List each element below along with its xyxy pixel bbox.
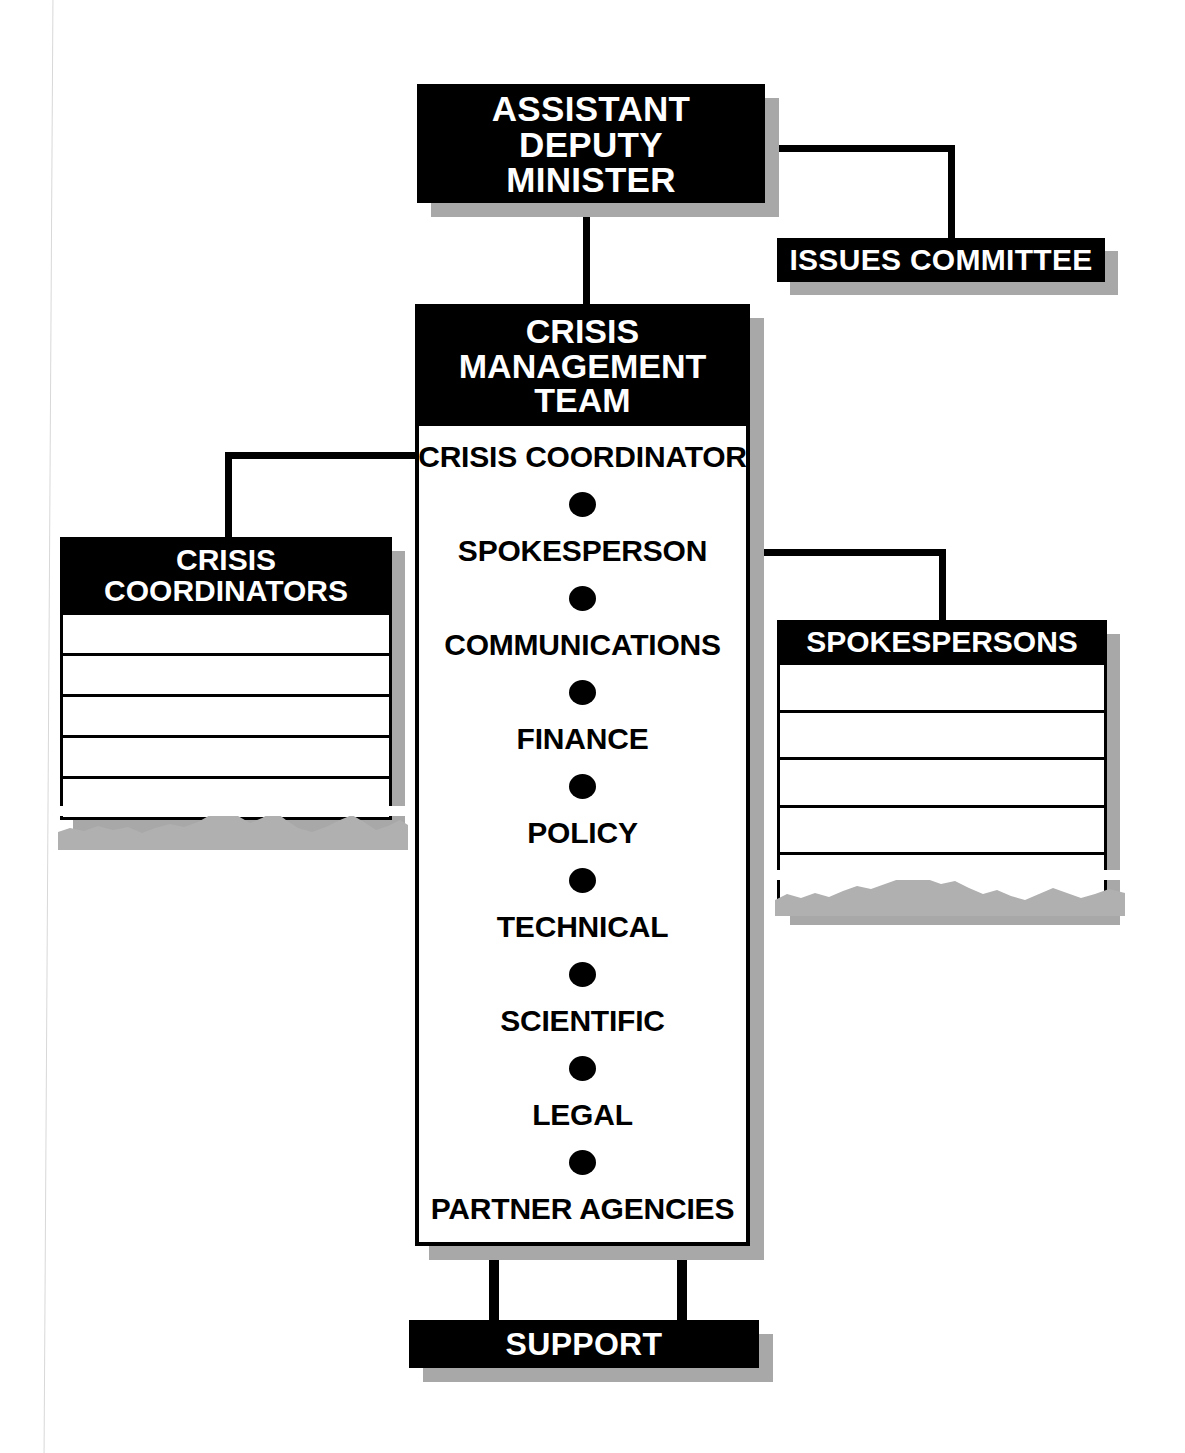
crisis-management-team-member-list: CRISIS COORDINATOR SPOKESPERSON COMMUNIC… <box>415 426 750 1246</box>
connector-coordinator-to-list-horizontal <box>225 452 420 459</box>
issues-committee-label: ISSUES COMMITTEE <box>789 245 1092 276</box>
cmt-member-scientific[interactable]: SCIENTIFIC <box>500 1006 665 1036</box>
cmt-member-spokesperson[interactable]: SPOKESPERSON <box>458 536 707 566</box>
spokespersons-rows <box>777 665 1107 903</box>
cmt-member-technical[interactable]: TECHNICAL <box>497 912 669 942</box>
spokespersons-header: SPOKESPERSONS <box>777 620 1107 665</box>
crisis-management-team-box[interactable]: CRISIS MANAGEMENT TEAM CRISIS COORDINATO… <box>415 304 750 1246</box>
list-item[interactable] <box>780 713 1104 761</box>
list-item[interactable] <box>63 738 389 779</box>
list-item[interactable] <box>780 665 1104 713</box>
crisis-coordinators-rows <box>60 615 392 820</box>
spokespersons-header-label: SPOKESPERSONS <box>806 627 1078 658</box>
list-item[interactable] <box>780 760 1104 808</box>
page-edge-line <box>44 0 54 1453</box>
bullet-dot-icon <box>569 1150 596 1175</box>
support-box[interactable]: SUPPORT <box>409 1320 759 1368</box>
adm-label-line3: MINISTER <box>492 162 690 198</box>
bullet-dot-icon <box>569 868 596 893</box>
list-item[interactable] <box>63 615 389 656</box>
list-item[interactable] <box>63 656 389 697</box>
crisis-coordinators-header: CRISIS COORDINATORS <box>60 537 392 615</box>
cc-header-line1: CRISIS <box>104 545 348 576</box>
cmt-member-finance[interactable]: FINANCE <box>517 724 649 754</box>
connector-adm-to-issues-vertical <box>948 145 955 243</box>
bullet-dot-icon <box>569 492 596 517</box>
issues-committee-box[interactable]: ISSUES COMMITTEE <box>777 238 1105 282</box>
support-label: SUPPORT <box>506 1328 663 1361</box>
adm-label-line2: DEPUTY <box>492 127 690 163</box>
connector-spokesperson-to-list-vertical <box>939 549 946 627</box>
bullet-dot-icon <box>569 680 596 705</box>
connector-spokesperson-to-list-horizontal <box>746 549 946 556</box>
cmt-member-legal[interactable]: LEGAL <box>532 1100 633 1130</box>
list-item[interactable] <box>780 808 1104 856</box>
bullet-dot-icon <box>569 1056 596 1081</box>
cc-header-line2: COORDINATORS <box>104 576 348 607</box>
crisis-coordinators-box[interactable]: CRISIS COORDINATORS <box>60 537 392 820</box>
org-chart-page: ASSISTANT DEPUTY MINISTER ISSUES COMMITT… <box>0 0 1185 1453</box>
cmt-member-partner-agencies[interactable]: PARTNER AGENCIES <box>431 1194 735 1224</box>
cmt-member-crisis-coordinator[interactable]: CRISIS COORDINATOR <box>418 442 747 472</box>
cmt-header-line3: TEAM <box>459 383 706 418</box>
list-item[interactable] <box>63 779 389 820</box>
cmt-member-policy[interactable]: POLICY <box>527 818 637 848</box>
connector-coordinator-to-list-vertical <box>225 452 232 544</box>
list-item[interactable] <box>780 855 1104 903</box>
list-item[interactable] <box>63 697 389 738</box>
bullet-dot-icon <box>569 774 596 799</box>
spokespersons-box[interactable]: SPOKESPERSONS <box>777 620 1107 903</box>
connector-adm-to-issues-horizontal <box>760 145 955 152</box>
bullet-dot-icon <box>569 586 596 611</box>
cmt-header-line2: MANAGEMENT <box>459 349 706 384</box>
crisis-management-team-header: CRISIS MANAGEMENT TEAM <box>415 304 750 426</box>
adm-label-line1: ASSISTANT <box>492 91 690 127</box>
cmt-header-line1: CRISIS <box>459 314 706 349</box>
bullet-dot-icon <box>569 962 596 987</box>
assistant-deputy-minister-box[interactable]: ASSISTANT DEPUTY MINISTER <box>417 84 765 203</box>
cmt-member-communications[interactable]: COMMUNICATIONS <box>444 630 721 660</box>
